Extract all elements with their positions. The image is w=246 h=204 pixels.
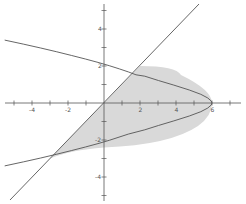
y-tick-label: -4 (95, 173, 101, 180)
x-tick-label: -4 (29, 106, 35, 113)
shaded-region (50, 66, 212, 159)
y-tick-label: -2 (95, 136, 101, 143)
x-tick-label: -2 (65, 106, 71, 113)
chart-canvas: -4 -2 2 4 6 4 2 -2 -4 (0, 0, 246, 204)
x-tick-label: 6 (211, 106, 215, 113)
x-tick-label: 2 (139, 106, 143, 113)
y-tick-label: 4 (98, 25, 102, 32)
x-tick-label: 4 (175, 106, 179, 113)
